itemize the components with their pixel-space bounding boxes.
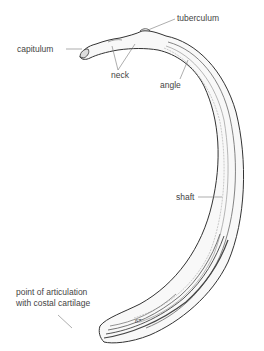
label-articulation-line1: point of articulation	[16, 287, 87, 297]
plate-number: 67	[135, 318, 141, 324]
label-tuberculum: tuberculum	[177, 13, 219, 23]
label-capitulum: capitulum	[17, 44, 53, 54]
leader-angle	[180, 60, 188, 79]
label-articulation-line2: with costal cartilage	[16, 298, 90, 308]
label-neck: neck	[111, 70, 129, 80]
label-shaft: shaft	[176, 192, 194, 202]
rib-outline	[80, 31, 244, 343]
leader-tuberculum	[148, 19, 175, 30]
label-angle: angle	[160, 80, 181, 90]
leader-articulation	[58, 315, 72, 328]
